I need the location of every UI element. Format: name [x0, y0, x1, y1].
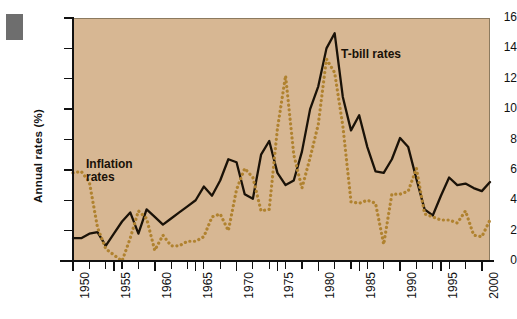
y-tick	[64, 78, 72, 79]
x-tick-minor	[252, 262, 253, 269]
x-tick-minor	[220, 262, 221, 269]
y-tick-label: 8	[463, 132, 517, 146]
x-tick-minor	[171, 262, 172, 269]
x-tick-minor	[203, 262, 204, 269]
y-tick-label: 12	[463, 71, 517, 85]
x-tick-minor	[121, 262, 122, 269]
x-tick-minor	[89, 262, 90, 269]
y-tick-label: 4	[463, 192, 517, 206]
y-axis-line	[72, 17, 74, 262]
x-tick-major	[359, 262, 360, 271]
series-path-t-bill-rates	[73, 33, 490, 246]
x-tick-label: 1950	[78, 272, 92, 299]
y-tick	[64, 48, 72, 49]
x-tick-minor	[105, 262, 106, 269]
y-tick	[64, 260, 72, 261]
x-tick-label: 1995	[446, 272, 460, 299]
x-tick-major	[154, 262, 155, 271]
x-tick-minor	[334, 262, 335, 269]
x-tick-major	[195, 262, 196, 271]
y-tick	[64, 200, 72, 201]
x-tick-major	[318, 262, 319, 271]
x-tick-minor	[465, 262, 466, 269]
x-tick-minor	[416, 262, 417, 269]
y-tick-label: 10	[463, 101, 517, 115]
chart-figure: 0246810121416 19501955196019651970197519…	[0, 0, 517, 319]
x-tick-major	[72, 262, 73, 271]
y-tick-label: 6	[463, 162, 517, 176]
x-tick-minor	[350, 262, 351, 269]
y-axis-title: Annual rates (%)	[32, 96, 44, 216]
x-tick-label: 1990	[405, 272, 419, 299]
series-path-inflation-rates	[73, 59, 490, 261]
x-tick-major	[277, 262, 278, 271]
x-tick-major	[481, 262, 482, 271]
y-tick	[64, 139, 72, 140]
x-tick-minor	[301, 262, 302, 269]
x-tick-minor	[367, 262, 368, 269]
x-tick-label: 1970	[242, 272, 256, 299]
x-tick-major	[440, 262, 441, 271]
x-tick-label: 1960	[160, 272, 174, 299]
x-tick-label: 1975	[282, 272, 296, 299]
x-tick-label: 1965	[201, 272, 215, 299]
x-tick-minor	[432, 262, 433, 269]
y-tick-label: 0	[463, 253, 517, 267]
y-tick	[64, 108, 72, 109]
x-tick-label: 1955	[119, 272, 133, 299]
y-tick-label: 14	[463, 40, 517, 54]
x-tick-major	[399, 262, 400, 271]
y-tick	[64, 17, 72, 18]
x-tick-minor	[138, 262, 139, 269]
y-tick-label: 2	[463, 223, 517, 237]
x-tick-label: 1985	[364, 272, 378, 299]
x-tick-major	[113, 262, 114, 271]
y-tick	[64, 169, 72, 170]
x-tick-minor	[187, 262, 188, 269]
x-tick-minor	[383, 262, 384, 269]
x-tick-minor	[285, 262, 286, 269]
x-tick-minor	[269, 262, 270, 269]
x-tick-label: 2000	[487, 272, 501, 299]
series-label-tbill: T-bill rates	[341, 48, 401, 61]
series-label-inflation: Inflation rates	[86, 158, 133, 184]
x-tick-minor	[449, 262, 450, 269]
y-tick	[64, 230, 72, 231]
y-tick-label: 16	[463, 10, 517, 24]
x-tick-major	[236, 262, 237, 271]
x-tick-label: 1980	[323, 272, 337, 299]
